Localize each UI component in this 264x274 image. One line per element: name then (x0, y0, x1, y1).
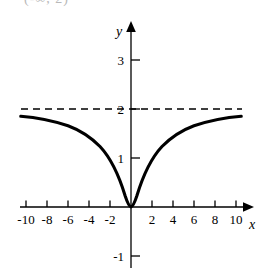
x-tick-labels: -10 -8 -6 -4 -2 2 4 6 8 10 (17, 212, 242, 227)
x-axis (20, 202, 254, 212)
y-axis-arrowhead (126, 21, 136, 32)
y-tick-label: -1 (113, 249, 124, 264)
x-tick-label: 6 (191, 212, 198, 227)
x-tick-label: -8 (42, 212, 53, 227)
x-tick-label: -2 (105, 212, 116, 227)
y-axis (126, 21, 136, 268)
y-axis-ticks (131, 60, 140, 256)
y-tick-label: 2 (118, 102, 125, 117)
x-tick-label: -6 (63, 212, 74, 227)
x-axis-arrowhead (243, 202, 254, 212)
y-tick-label: 1 (118, 151, 125, 166)
x-tick-label: 2 (149, 212, 156, 227)
x-tick-label: -4 (84, 212, 95, 227)
clipped-caption-above: (-∞, 2) (24, 0, 69, 7)
x-tick-label: 8 (212, 212, 219, 227)
x-tick-label: 4 (170, 212, 177, 227)
function-graph-figure: (-∞, 2) (0, 0, 264, 274)
y-tick-labels: 3 2 1 -1 (113, 53, 124, 264)
graph-canvas: -10 -8 -6 -4 -2 2 4 6 8 10 3 2 1 -1 x y (0, 0, 264, 274)
x-axis-label: x (248, 217, 256, 232)
x-tick-label: -10 (17, 212, 34, 227)
y-tick-label: 3 (118, 53, 125, 68)
x-tick-label: 10 (230, 212, 243, 227)
y-axis-label: y (114, 24, 123, 39)
